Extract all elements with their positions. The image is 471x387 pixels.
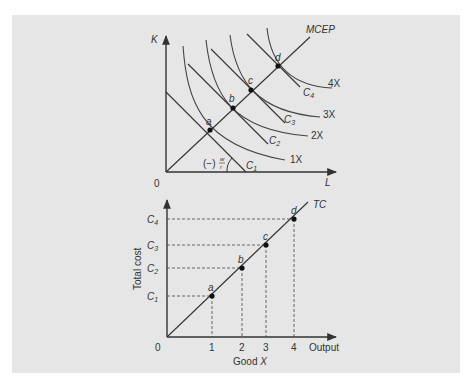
slope-label: (−) [203, 158, 216, 169]
slope-num: w [220, 156, 225, 162]
top-chart: K L 0 MCEP a b c d C1 C2 C3 C4 1X 2X 3X [151, 24, 341, 189]
point-b-label-top: b [229, 93, 235, 104]
isocost-label-c1: C1 [246, 160, 257, 172]
isoquant-label-1x: 1X [290, 154, 303, 165]
x-tick-1: 1 [209, 342, 215, 353]
isocost-label-c3: C3 [284, 114, 295, 126]
total-cost-axis-label: Total cost [132, 248, 143, 290]
mcep-line [166, 37, 310, 172]
isoquant-label-3x: 3X [323, 109, 336, 120]
tc-label: TC [313, 199, 327, 210]
point-d-top [275, 63, 280, 68]
point-d-bottom [291, 216, 296, 221]
point-b-label-bottom: b [238, 254, 244, 265]
slope-angle-arc [227, 158, 232, 172]
x-tick-3: 3 [263, 342, 269, 353]
point-d-label-bottom: d [291, 205, 297, 216]
x-tick-4: 4 [291, 342, 297, 353]
point-a-label-bottom: a [208, 282, 214, 293]
point-d-label-top: d [275, 52, 281, 63]
figure-svg: K L 0 MCEP a b c d C1 C2 C3 C4 1X 2X 3X [0, 0, 471, 387]
good-x-axis-title: Good X [233, 356, 267, 367]
point-b-top [230, 105, 235, 110]
point-b-bottom [239, 265, 244, 270]
top-origin-label: 0 [154, 178, 160, 189]
y-tick-c4: C4 [147, 214, 158, 226]
point-a-top [207, 127, 212, 132]
isoquant-3x [230, 35, 320, 117]
point-c-top [248, 87, 253, 92]
isoquant-label-4x: 4X [328, 78, 341, 89]
isocost-label-c4: C4 [303, 87, 314, 99]
l-axis-label: L [325, 177, 331, 188]
x-tick-2: 2 [239, 342, 245, 353]
point-c-bottom [263, 242, 268, 247]
isoquant-label-2x: 2X [311, 130, 324, 141]
slope-den: r [220, 164, 223, 170]
tc-line [167, 202, 308, 337]
bottom-chart: 0 Output Good X Total cost TC a b c d C1… [132, 199, 339, 367]
mcep-label: MCEP [306, 24, 335, 35]
k-axis-label: K [151, 34, 159, 45]
output-axis-label: Output [309, 342, 339, 353]
isocost-line-c3 [211, 49, 285, 123]
point-a-label-top: a [206, 116, 212, 127]
isocost-line-c4 [247, 34, 300, 87]
isocost-label-c2: C2 [269, 135, 280, 147]
point-c-label-bottom: c [263, 231, 268, 242]
bottom-origin-label: 0 [155, 342, 161, 353]
y-tick-c2: C2 [147, 263, 158, 275]
point-c-label-top: c [248, 75, 253, 86]
point-a-bottom [209, 293, 214, 298]
y-tick-c3: C3 [147, 240, 158, 252]
y-tick-c1: C1 [147, 291, 158, 303]
